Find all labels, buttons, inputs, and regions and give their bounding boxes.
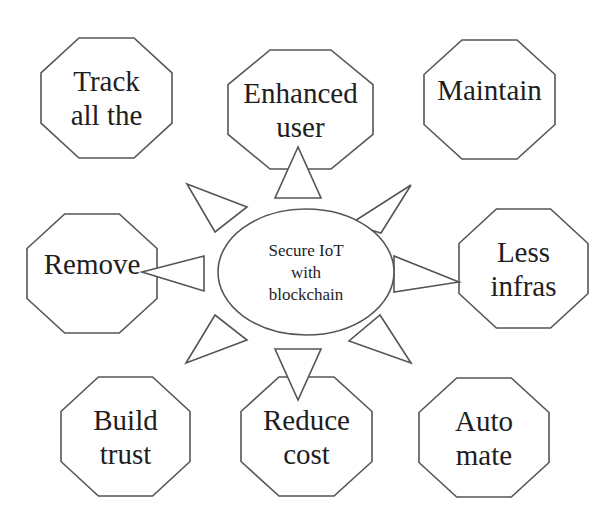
node-label: Less — [497, 236, 550, 268]
octagon-shape — [41, 38, 172, 158]
node-label: trust — [100, 438, 152, 470]
center-label: Secure IoT — [268, 241, 344, 260]
arrow-up-left-triangle-icon — [187, 184, 247, 232]
center-label: blockchain — [269, 285, 344, 304]
node-label: Auto — [455, 405, 513, 437]
node-label: Build — [93, 404, 158, 436]
arrow-right-triangle-icon — [394, 256, 459, 292]
octagon-shape — [241, 377, 372, 496]
node-label: Reduce — [263, 404, 350, 436]
node-label: Remove — [44, 248, 141, 280]
radial-diagram: Trackall theEnhanceduserMaintainRemoveLe… — [0, 0, 612, 529]
center-label: with — [291, 263, 322, 282]
node-label: infras — [490, 270, 556, 302]
node-remove: Remove — [27, 214, 157, 333]
node-automate: Automate — [419, 378, 549, 497]
octagon-shape — [419, 378, 549, 497]
node-label: all the — [71, 99, 143, 131]
diagram-canvas: Trackall theEnhanceduserMaintainRemoveLe… — [0, 0, 612, 529]
node-label: user — [276, 111, 325, 143]
octagon-shape — [61, 377, 190, 496]
node-label: cost — [283, 438, 330, 470]
node-reduce-cost: Reducecost — [241, 377, 372, 496]
node-build-trust: Buildtrust — [61, 377, 190, 496]
node-label: Track — [73, 65, 140, 97]
arrow-down-left-triangle-icon — [186, 315, 247, 363]
node-less-infras: Lessinfras — [459, 209, 588, 328]
node-maintain: Maintain — [424, 40, 555, 159]
node-track: Trackall the — [41, 38, 172, 158]
octagon-shape — [459, 209, 588, 328]
node-label: mate — [456, 439, 512, 471]
node-label: Maintain — [437, 74, 542, 106]
node-label: Enhanced — [243, 77, 358, 109]
center-concept: Secure IoTwithblockchain — [218, 209, 394, 335]
